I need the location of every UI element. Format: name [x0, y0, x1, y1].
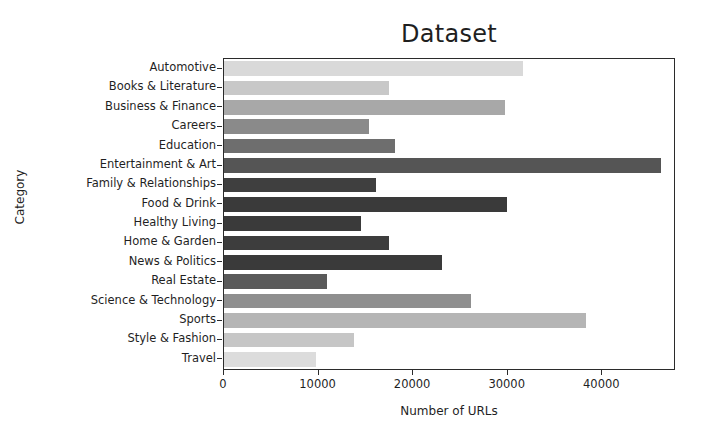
- y-tick-mark: [217, 223, 222, 224]
- y-tick-label: Business & Finance: [105, 97, 216, 116]
- bar-chart-figure: Dataset Category AutomotiveBooks & Liter…: [0, 0, 704, 442]
- x-axis-label: Number of URLs: [223, 404, 675, 418]
- y-tick-mark: [217, 126, 222, 127]
- y-tick-label: Careers: [172, 116, 216, 135]
- bar-row: [224, 253, 674, 272]
- bars-container: [224, 59, 674, 369]
- bar: [224, 333, 354, 348]
- bar-row: [224, 98, 674, 117]
- bar-row: [224, 311, 674, 330]
- bar: [224, 81, 389, 96]
- y-tick-label: Home & Garden: [124, 232, 216, 251]
- x-tick-mark: [601, 370, 602, 375]
- bar: [224, 178, 376, 193]
- x-tick-mark: [223, 370, 224, 375]
- y-tick-label: Food & Drink: [141, 194, 216, 213]
- x-tick-mark: [318, 370, 319, 375]
- y-tick-label: Education: [159, 136, 216, 155]
- x-tick-mark: [412, 370, 413, 375]
- bar: [224, 158, 661, 173]
- y-tick-label: News & Politics: [129, 252, 216, 271]
- y-tick-label: Science & Technology: [91, 291, 216, 310]
- bar-row: [224, 272, 674, 291]
- bar-row: [224, 195, 674, 214]
- y-tick-label: Sports: [179, 310, 216, 329]
- y-tick-label: Real Estate: [151, 271, 216, 290]
- bar: [224, 61, 523, 76]
- chart-title: Dataset: [223, 20, 675, 48]
- y-tick-mark: [217, 242, 222, 243]
- y-tick-mark: [217, 358, 222, 359]
- y-tick-label: Books & Literature: [109, 77, 216, 96]
- x-tick-label: 40000: [583, 377, 620, 391]
- x-tick-label: 10000: [299, 377, 336, 391]
- bar-row: [224, 59, 674, 78]
- y-tick-mark: [217, 300, 222, 301]
- y-tick-mark: [217, 106, 222, 107]
- y-tick-mark: [217, 184, 222, 185]
- y-tick-mark: [217, 281, 222, 282]
- y-tick-mark: [217, 87, 222, 88]
- y-tick-mark: [217, 68, 222, 69]
- y-tick-label: Travel: [182, 349, 216, 368]
- y-tick-label: Family & Relationships: [86, 174, 216, 193]
- bar-row: [224, 175, 674, 194]
- y-tick-label: Style & Fashion: [127, 329, 216, 348]
- bar: [224, 216, 361, 231]
- bar-row: [224, 156, 674, 175]
- x-tick-label: 0: [219, 377, 226, 391]
- bar: [224, 274, 327, 289]
- y-tick-mark: [217, 339, 222, 340]
- bar-row: [224, 78, 674, 97]
- x-tick-mark: [507, 370, 508, 375]
- bar: [224, 197, 507, 212]
- y-tick-label: Automotive: [149, 58, 216, 77]
- bar: [224, 139, 395, 154]
- bar: [224, 119, 369, 134]
- bar-row: [224, 350, 674, 369]
- y-tick-mark: [217, 203, 222, 204]
- y-tick-label: Healthy Living: [134, 213, 216, 232]
- bar-row: [224, 292, 674, 311]
- y-tick-mark: [217, 261, 222, 262]
- y-tick-label: Entertainment & Art: [100, 155, 216, 174]
- bar-row: [224, 117, 674, 136]
- y-tick-mark: [217, 165, 222, 166]
- y-axis-tick-labels: AutomotiveBooks & LiteratureBusiness & F…: [0, 58, 216, 370]
- bar: [224, 294, 471, 309]
- bar: [224, 352, 316, 367]
- bar-row: [224, 330, 674, 349]
- bar: [224, 236, 389, 251]
- x-tick-label: 20000: [394, 377, 431, 391]
- y-tick-mark: [217, 145, 222, 146]
- bar-row: [224, 233, 674, 252]
- bar-row: [224, 137, 674, 156]
- bar-row: [224, 214, 674, 233]
- bar: [224, 255, 442, 270]
- bar: [224, 313, 586, 328]
- bar: [224, 100, 505, 115]
- x-tick-label: 30000: [488, 377, 525, 391]
- y-tick-mark: [217, 320, 222, 321]
